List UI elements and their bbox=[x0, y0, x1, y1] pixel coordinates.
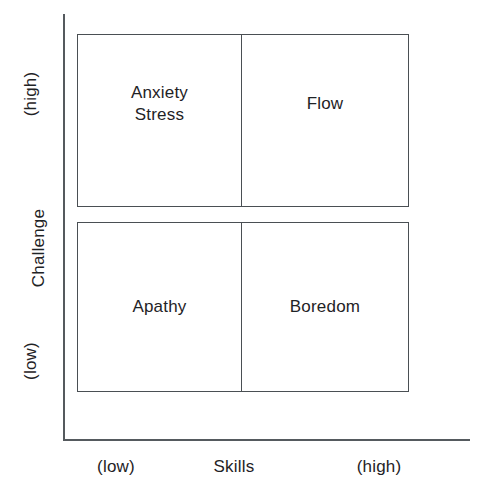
y-axis-title: Challenge bbox=[0, 238, 62, 258]
quadrant-apathy: Apathy bbox=[78, 223, 242, 391]
quadrant-row-high-challenge: Anxiety Stress Flow bbox=[77, 34, 409, 207]
x-axis-tick-high: (high) bbox=[336, 457, 422, 477]
y-axis-tick-low: (low) bbox=[0, 351, 62, 371]
x-axis-tick-low: (low) bbox=[78, 457, 154, 477]
y-axis-tick-high: (high) bbox=[0, 84, 62, 104]
quadrant-flow-label: Flow bbox=[307, 93, 344, 115]
quadrant-anxiety-stress-label: Anxiety Stress bbox=[131, 82, 188, 126]
quadrant-anxiety-stress: Anxiety Stress bbox=[78, 35, 242, 206]
flow-quadrant-diagram: (high) Challenge (low) Anxiety Stress Fl… bbox=[0, 0, 483, 496]
y-axis-line bbox=[63, 14, 65, 441]
quadrant-boredom-label: Boredom bbox=[290, 296, 360, 318]
x-axis-line bbox=[63, 439, 470, 441]
quadrant-flow: Flow bbox=[242, 35, 408, 206]
quadrant-apathy-label: Apathy bbox=[132, 296, 186, 318]
quadrant-boredom: Boredom bbox=[242, 223, 408, 391]
quadrant-row-low-challenge: Apathy Boredom bbox=[77, 222, 409, 392]
y-axis-title-text: Challenge bbox=[29, 209, 49, 287]
x-axis-title: Skills bbox=[188, 457, 280, 477]
y-axis-tick-low-text: (low) bbox=[21, 342, 41, 380]
y-axis-tick-high-text: (high) bbox=[21, 72, 41, 117]
